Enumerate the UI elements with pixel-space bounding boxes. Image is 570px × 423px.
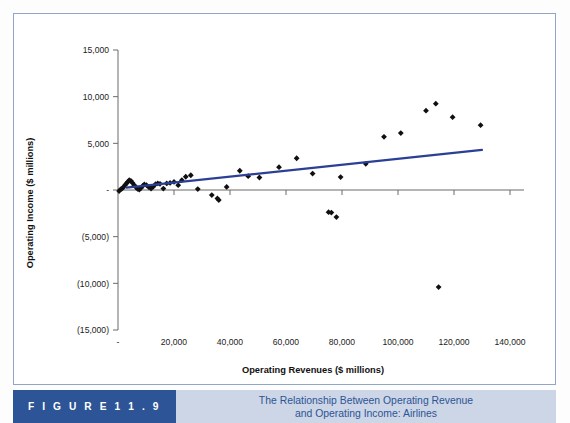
data-point-marker [257, 175, 263, 181]
x-tick-label: 40,000 [217, 337, 244, 347]
y-tick-label: (10,000) [77, 279, 109, 289]
data-point-marker [338, 174, 344, 180]
x-tick-label: 100,000 [382, 337, 413, 347]
x-axis-title: Operating Revenues ($ millions) [242, 365, 384, 375]
data-point-marker [188, 172, 194, 178]
data-point-marker [436, 284, 442, 290]
data-point-marker [450, 114, 456, 120]
figure-caption-bar: F I G U R E 1 1 . 9 The Relationship Bet… [13, 390, 556, 423]
x-tick-label: 140,000 [494, 337, 525, 347]
x-tick-label: - [117, 337, 120, 347]
y-tick-label: - [106, 185, 109, 195]
data-point-marker [381, 134, 387, 140]
data-point-marker [209, 192, 215, 198]
figure-caption-text: The Relationship Between Operating Reven… [176, 390, 556, 423]
data-point-marker [423, 108, 429, 114]
data-point-marker [334, 214, 340, 220]
x-axis-ticks [174, 190, 510, 195]
caption-line-1: The Relationship Between Operating Reven… [259, 394, 473, 407]
data-point-marker [237, 168, 243, 174]
y-tick-label: (15,000) [77, 325, 109, 335]
x-axis-tick-labels: -20,00040,00060,00080,000100,000120,0001… [117, 337, 526, 347]
scatter-chart: 15,00010,0005,000-(5,000)(10,000)(15,000… [13, 13, 556, 385]
figure-root: 15,00010,0005,000-(5,000)(10,000)(15,000… [0, 0, 570, 423]
y-tick-label: 15,000 [83, 45, 110, 55]
x-tick-label: 60,000 [273, 337, 300, 347]
y-tick-label: (5,000) [82, 232, 109, 242]
figure-number-badge: F I G U R E 1 1 . 9 [13, 390, 176, 423]
data-points-group [116, 101, 483, 290]
data-point-marker [276, 164, 282, 170]
data-point-marker [310, 171, 316, 177]
y-tick-label: 10,000 [83, 92, 110, 102]
x-tick-label: 20,000 [161, 337, 188, 347]
data-point-marker [398, 130, 404, 136]
y-axis-title: Operating Income ($ millions) [25, 138, 35, 269]
data-point-marker [433, 101, 439, 107]
data-point-marker [224, 184, 230, 190]
data-point-marker [478, 122, 484, 128]
y-axis-ticks: 15,00010,0005,000-(5,000)(10,000)(15,000… [77, 45, 118, 335]
data-point-marker [294, 155, 300, 161]
regression-trend-line [126, 150, 482, 188]
data-point-marker [195, 186, 201, 192]
y-tick-label: 5,000 [87, 139, 109, 149]
data-point-marker [183, 174, 189, 180]
x-tick-label: 120,000 [438, 337, 469, 347]
data-point-marker [160, 186, 166, 192]
y-axis-group: 15,00010,0005,000-(5,000)(10,000)(15,000… [77, 45, 118, 335]
caption-line-2: and Operating Income: Airlines [295, 407, 437, 420]
x-axis-group [118, 190, 524, 195]
x-tick-label: 80,000 [329, 337, 356, 347]
